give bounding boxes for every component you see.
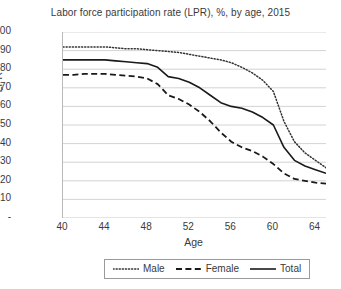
- x-axis-tick-60: 60: [252, 221, 292, 232]
- y-axis-tick-20: 20: [0, 174, 11, 185]
- y-axis-tick-70: 70: [0, 81, 11, 92]
- x-axis-tick-48: 48: [126, 221, 166, 232]
- y-axis-tick-0: -: [0, 211, 11, 222]
- y-axis-tick-80: 80: [0, 62, 11, 73]
- x-axis-tick-40: 40: [42, 221, 82, 232]
- legend-swatch-female: [176, 265, 202, 273]
- legend-label-total: Total: [280, 263, 301, 274]
- legend-label-male: Male: [143, 263, 165, 274]
- legend-swatch-male: [113, 265, 139, 273]
- series-line-total: [63, 60, 326, 173]
- y-axis-tick-90: 90: [0, 44, 11, 55]
- legend-item-female[interactable]: Female: [176, 263, 239, 274]
- plot-area: [62, 32, 326, 218]
- legend-swatch-total: [250, 265, 276, 273]
- plot-svg: [63, 32, 326, 218]
- y-axis-tick-10: 10: [0, 192, 11, 203]
- x-axis-tick-44: 44: [84, 221, 124, 232]
- y-axis-tick-30: 30: [0, 155, 11, 166]
- x-axis-tick-52: 52: [168, 221, 208, 232]
- legend-item-total[interactable]: Total: [250, 263, 301, 274]
- y-axis-tick-100: 100: [0, 25, 11, 36]
- legend-label-female: Female: [206, 263, 239, 274]
- legend-item-male[interactable]: Male: [113, 263, 165, 274]
- y-axis-tick-40: 40: [0, 137, 11, 148]
- x-axis-tick-56: 56: [210, 221, 250, 232]
- y-axis-tick-50: 50: [0, 118, 11, 129]
- x-axis-tick-64: 64: [294, 221, 334, 232]
- chart-container: Labor force participation rate (LPR), %,…: [0, 0, 341, 289]
- y-axis-tick-60: 60: [0, 99, 11, 110]
- chart-title: Labor force participation rate (LPR), %,…: [0, 7, 341, 18]
- x-axis-label: Age: [62, 236, 325, 248]
- series-line-female: [63, 74, 326, 184]
- chart-legend: MaleFemaleTotal: [104, 259, 310, 279]
